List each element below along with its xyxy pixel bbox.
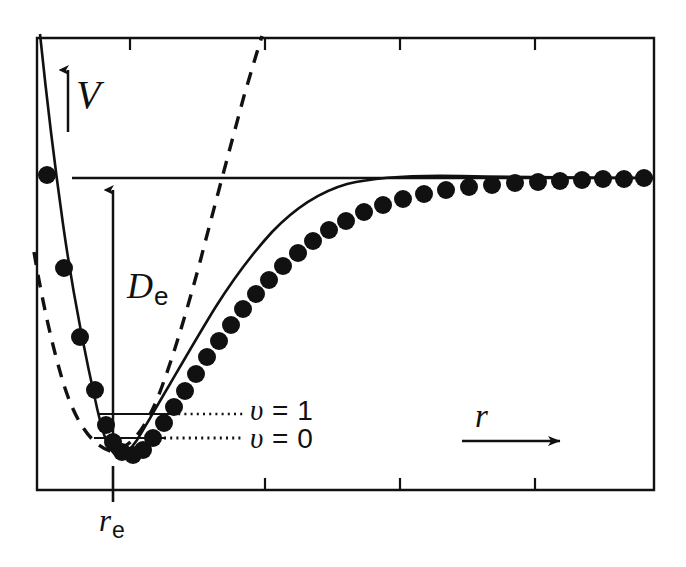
top-axis-ticks xyxy=(130,38,535,50)
morse-data-points xyxy=(38,166,653,464)
bottom-axis-ticks xyxy=(265,478,535,490)
potential-energy-plot xyxy=(0,0,686,567)
internuclear-distance-axis-label: r xyxy=(475,400,488,433)
well-depth-label-subscript: e xyxy=(154,281,168,311)
vibrational-level-value-1: = 1 xyxy=(264,395,313,426)
vibrational-level-label-1: υ = 1 xyxy=(250,396,313,425)
well-depth-label: De xyxy=(127,268,167,304)
plot-frame xyxy=(37,38,654,490)
equilibrium-distance-label-main: r xyxy=(99,503,111,538)
equilibrium-distance-label: re xyxy=(99,505,124,536)
morse-potential-curve xyxy=(40,34,654,455)
vibrational-level-value-0: = 0 xyxy=(264,423,313,454)
morse-potential-figure: V r De re υ = 1 υ = 0 xyxy=(0,0,686,567)
potential-energy-axis-label: V xyxy=(76,75,100,115)
well-depth-label-main: D xyxy=(127,266,153,306)
vibrational-level-label-0: υ = 0 xyxy=(250,424,313,453)
equilibrium-distance-label-subscript: e xyxy=(112,517,125,543)
vibrational-quantum-symbol-0: υ xyxy=(250,422,264,454)
